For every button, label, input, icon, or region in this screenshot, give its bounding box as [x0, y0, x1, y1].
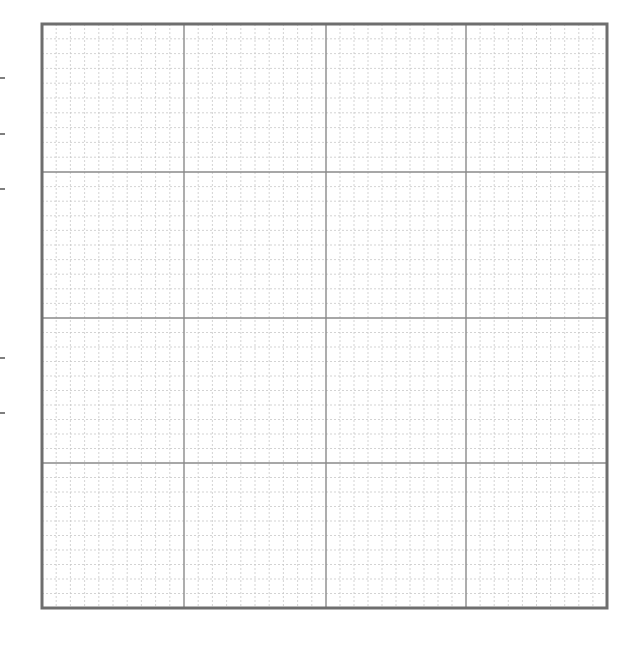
margin-tick-marks	[0, 78, 5, 413]
minor-grid-lines	[42, 24, 607, 608]
graph-paper-grid	[0, 0, 639, 660]
